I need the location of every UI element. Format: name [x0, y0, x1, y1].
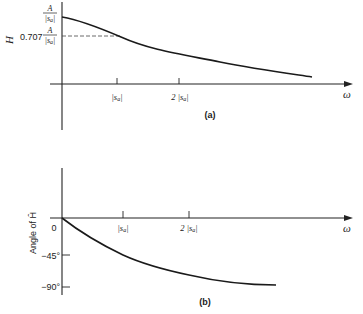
svg-text:A: A — [47, 26, 53, 35]
plot-b-x-arrow-icon — [344, 215, 353, 221]
plot-b: Angle of Ĥ 0 −45° −90° |sa| 2 |sa| ω (b) — [28, 168, 353, 307]
plot-b-phase-curve — [62, 218, 276, 285]
plot-a: H A |sa| 0.707 A |sa| |sa| 2 |sa| ω (a) — [3, 2, 353, 130]
figure: H A |sa| 0.707 A |sa| |sa| 2 |sa| ω (a) — [0, 0, 363, 314]
plot-b-x-axis-label: ω — [343, 222, 351, 234]
plot-a-y-tick-top: A |sa| — [43, 4, 57, 23]
plot-b-origin-label: 0 — [51, 223, 56, 233]
plot-a-caption: (a) — [205, 110, 216, 120]
plot-a-x-arrow-icon — [344, 81, 353, 87]
plot-b-y-tick-label-90: −90° — [41, 282, 60, 292]
plot-b-x-tick-label-1: |sa| — [118, 223, 129, 233]
svg-text:|sa|: |sa| — [45, 36, 56, 45]
plot-a-x-tick-label-1: |sa| — [112, 92, 123, 102]
plot-a-y-axis-label: H — [3, 35, 15, 45]
plot-b-y-axis-label: Angle of Ĥ — [28, 212, 38, 254]
plot-a-x-axis-label: ω — [343, 88, 351, 100]
svg-text:|sa|: |sa| — [45, 14, 56, 23]
plot-b-y-tick-label-45: −45° — [41, 251, 60, 261]
plot-a-magnitude-curve — [62, 17, 312, 77]
plot-a-y-tick-mid: 0.707 A |sa| — [20, 26, 57, 45]
plot-b-x-tick-label-2: 2 |sa| — [180, 223, 197, 233]
svg-text:A: A — [47, 4, 53, 13]
plot-b-caption: (b) — [199, 297, 211, 307]
plot-a-x-tick-label-2: 2 |sa| — [171, 92, 188, 102]
svg-text:0.707: 0.707 — [20, 32, 43, 42]
